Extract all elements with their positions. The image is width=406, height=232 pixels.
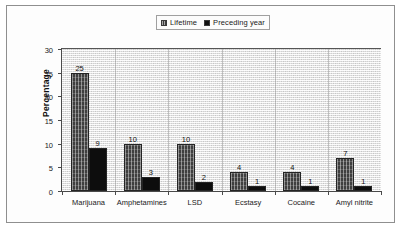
bar-lifetime: 10 <box>124 144 142 191</box>
x-axis-tick <box>168 191 169 195</box>
lifetime-swatch-icon <box>161 20 167 26</box>
x-axis-tick <box>62 191 63 195</box>
legend-label-lifetime: Lifetime <box>170 18 197 27</box>
bar-group: 103Amphetamines <box>115 49 168 191</box>
bar-preceding: 2 <box>195 182 213 191</box>
bar-value-label: 7 <box>343 149 347 158</box>
bar-group: 41Cocaine <box>275 49 328 191</box>
bar-value-label: 4 <box>237 163 241 172</box>
bar-value-label: 3 <box>149 168 153 177</box>
y-axis-tick-label: 0 <box>49 188 53 197</box>
y-axis-tick-label: 25 <box>45 69 53 78</box>
y-axis-tick-label: 20 <box>45 93 53 102</box>
plot-area: 051015202530 259Marijuana103Amphetamines… <box>61 48 381 192</box>
bar-value-label: 1 <box>361 177 365 186</box>
bar-lifetime: 7 <box>336 158 354 191</box>
chart-legend: Lifetime Preceding year <box>156 15 270 30</box>
bar-lifetime: 10 <box>177 144 195 191</box>
x-axis-category-label: Cocaine <box>287 198 315 207</box>
y-axis-tick-label: 30 <box>45 46 53 55</box>
bar-lifetime: 4 <box>230 172 248 191</box>
x-axis-tick <box>275 191 276 195</box>
bar-value-label: 1 <box>255 177 259 186</box>
bar-group: 41Ecstasy <box>222 49 275 191</box>
bar-value-label: 10 <box>129 135 137 144</box>
bar-lifetime: 4 <box>283 172 301 191</box>
legend-entry-preceding-year: Preceding year <box>204 18 265 27</box>
bar-value-label: 9 <box>95 139 99 148</box>
legend-label-preceding-year: Preceding year <box>213 18 265 27</box>
x-axis-tick <box>328 191 329 195</box>
bar-value-label: 10 <box>182 135 190 144</box>
x-axis-category-label: Marijuana <box>72 198 105 207</box>
x-axis-category-label: Ecstasy <box>235 198 261 207</box>
y-axis-tick-label: 5 <box>49 164 53 173</box>
bar-value-label: 25 <box>75 64 83 73</box>
bar-value-label: 2 <box>202 173 206 182</box>
x-axis-category-label: Amphetamines <box>117 198 167 207</box>
bar-preceding: 1 <box>248 186 266 191</box>
bar-group: 259Marijuana <box>62 49 115 191</box>
bar-preceding: 3 <box>142 177 160 191</box>
bar-value-label: 4 <box>290 163 294 172</box>
x-axis-tick <box>115 191 116 195</box>
x-axis-category-label: Amyl nitrite <box>336 198 373 207</box>
x-axis-category-label: LSD <box>188 198 203 207</box>
bar-group: 102LSD <box>168 49 221 191</box>
bar-preceding: 1 <box>354 186 372 191</box>
preceding-year-swatch-icon <box>204 20 210 26</box>
bar-group: 71Amyl nitrite <box>328 49 381 191</box>
bar-chart-figure: Lifetime Preceding year Percentage 05101… <box>0 0 406 232</box>
y-axis-tick-label: 15 <box>45 117 53 126</box>
bar-lifetime: 25 <box>71 73 89 191</box>
bar-preceding: 1 <box>301 186 319 191</box>
legend-entry-lifetime: Lifetime <box>161 18 197 27</box>
x-axis-tick <box>381 191 382 195</box>
x-axis-tick <box>222 191 223 195</box>
bar-preceding: 9 <box>89 148 107 191</box>
y-axis-tick-label: 10 <box>45 140 53 149</box>
bar-value-label: 1 <box>308 177 312 186</box>
